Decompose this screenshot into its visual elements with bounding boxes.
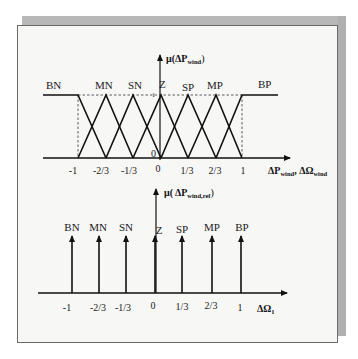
input-membership-chart: 1 0 μ(ΔPwind) BN MN SN Z SP MP BP -1 -2/… — [43, 53, 328, 177]
mf-bn — [43, 95, 106, 158]
svg-text:-1/3: -1/3 — [121, 165, 137, 176]
top-set-labels: BN MN SN Z SP MP BP — [46, 78, 271, 93]
label-mn: MN — [95, 79, 113, 91]
y-tick-one: 1 — [152, 92, 155, 98]
svg-text:-1: -1 — [63, 302, 71, 313]
svg-text:1: 1 — [241, 165, 246, 176]
label-z: Z — [159, 78, 166, 90]
bottom-x-tick-labels: -1 -2/3 -1/3 0 1/3 2/3 1 — [63, 300, 243, 313]
fuzzy-diagram: 1 0 μ(ΔPwind) BN MN SN Z SP MP BP -1 -2/… — [0, 0, 358, 359]
output-singleton-chart: μ( ΔPwind,ref) BN MN SN Z SP MP BP -1 -2… — [38, 187, 287, 315]
svg-text:0: 0 — [151, 300, 156, 311]
svg-text:1/3: 1/3 — [176, 301, 189, 312]
mf-sp — [161, 95, 216, 158]
svg-text:-2/3: -2/3 — [93, 165, 109, 176]
label-sp: SP — [182, 81, 194, 93]
svg-text:MP: MP — [204, 221, 220, 233]
svg-text:-1/3: -1/3 — [115, 302, 131, 313]
svg-text:-1: -1 — [69, 165, 77, 176]
y-tick-origin: 0 — [151, 148, 156, 159]
svg-text:2/3: 2/3 — [205, 300, 218, 311]
svg-text:SP: SP — [176, 223, 188, 235]
svg-text:MN: MN — [89, 221, 107, 233]
svg-text:SN: SN — [119, 221, 133, 233]
label-bn: BN — [46, 79, 61, 91]
bottom-x-axis-label: ΔΩ1 — [257, 303, 275, 315]
svg-text:Z: Z — [156, 224, 163, 236]
label-sn: SN — [128, 79, 142, 91]
svg-text:-2/3: -2/3 — [90, 302, 106, 313]
svg-text:BN: BN — [64, 221, 79, 233]
mf-bp — [216, 95, 278, 158]
label-bp: BP — [258, 78, 271, 90]
bottom-set-labels: BN MN SN Z SP MP BP — [64, 221, 248, 236]
svg-text:0: 0 — [156, 163, 161, 174]
top-x-tick-labels: -1 -2/3 -1/3 0 1/3 2/3 1 — [69, 163, 246, 176]
mf-mn — [78, 95, 133, 158]
label-mp: MP — [207, 79, 223, 91]
mf-mp — [188, 95, 242, 158]
top-y-axis-label: μ(ΔPwind) — [166, 53, 204, 65]
svg-text:1/3: 1/3 — [181, 165, 194, 176]
bottom-y-axis-label: μ( ΔPwind,ref) — [164, 187, 214, 199]
svg-text:2/3: 2/3 — [209, 165, 222, 176]
top-x-axis-label: ΔPwind, ΔΩwind — [268, 165, 328, 177]
svg-text:BP: BP — [235, 221, 248, 233]
svg-text:1: 1 — [238, 302, 243, 313]
